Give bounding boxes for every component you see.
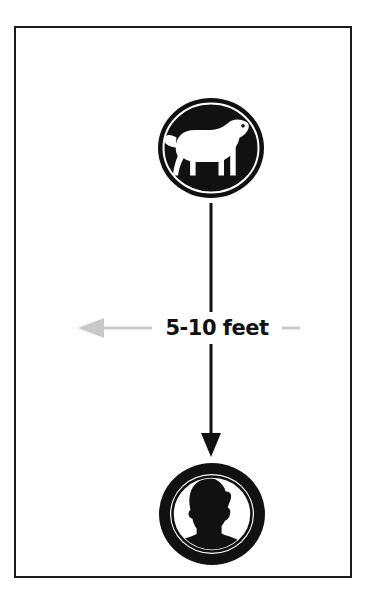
person-head-icon — [158, 462, 266, 566]
diagram-title: Safe distance between dog and person — [0, 0, 1, 1]
dog-icon — [157, 97, 265, 199]
diagram-root: 5-10 feet Safe distance between dog and … — [0, 0, 376, 603]
person-node[interactable] — [158, 462, 266, 566]
dog-node[interactable] — [157, 97, 265, 199]
distance-label: 5-10 feet — [152, 312, 282, 344]
